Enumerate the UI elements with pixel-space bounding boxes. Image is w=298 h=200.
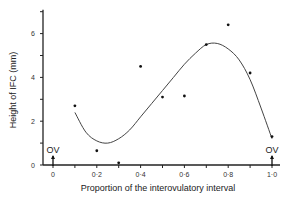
x-tick-label: 1·0 <box>267 171 277 178</box>
x-axis-title: Proportion of the interovulatory interva… <box>81 183 236 193</box>
ov-arrowhead-icon <box>51 155 55 159</box>
ov-label: OV <box>265 145 278 155</box>
data-point <box>271 135 274 138</box>
data-point <box>117 161 120 164</box>
x-tick-label: 0·2 <box>92 171 102 178</box>
ov-label: OV <box>46 145 59 155</box>
data-point <box>161 96 164 99</box>
ovulation-annotations: OVOV <box>46 145 278 166</box>
axes: 024600·20·40·60·81·0 <box>31 10 280 178</box>
x-tick-label: 0·4 <box>136 171 146 178</box>
ov-arrowhead-icon <box>270 155 274 159</box>
chart-canvas: 024600·20·40·60·81·0 OVOV Proportion of … <box>0 0 298 200</box>
data-point <box>139 65 142 68</box>
x-tick-label: 0 <box>51 171 55 178</box>
data-point <box>249 72 252 75</box>
fitted-curve <box>75 43 272 143</box>
y-tick-label: 6 <box>31 30 35 37</box>
data-point <box>183 95 186 98</box>
y-tick-label: 2 <box>31 118 35 125</box>
data-point <box>95 149 98 152</box>
data-point <box>227 23 230 26</box>
y-tick-label: 4 <box>31 74 35 81</box>
y-axis-title: Height of IFC (mm) <box>8 52 18 129</box>
x-tick-label: 0·8 <box>223 171 233 178</box>
data-point <box>205 43 208 46</box>
x-tick-label: 0·6 <box>179 171 189 178</box>
y-tick-label: 0 <box>31 162 35 169</box>
ifc-height-chart: 024600·20·40·60·81·0 OVOV Proportion of … <box>0 0 298 200</box>
data-point <box>74 104 77 107</box>
fitted-curve-path <box>75 43 272 143</box>
